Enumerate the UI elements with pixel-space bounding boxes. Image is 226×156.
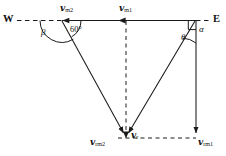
angle-label-theta: θ	[181, 33, 185, 42]
vector-label-v-r: vr	[131, 131, 138, 140]
angle-label-alpha: α	[199, 25, 204, 34]
vector-arrow-v-m2	[63, 18, 70, 23]
vector-subscript: r	[136, 133, 138, 140]
angle-label-beta: β	[41, 28, 45, 37]
diagram-canvas	[0, 0, 226, 156]
vector-subscript: rm2	[95, 140, 105, 147]
compass-label-east: E	[213, 14, 220, 25]
angle-label-sixty-degrees: 60°	[70, 26, 82, 34]
vector-subscript: m1	[124, 6, 132, 13]
vector-label-v-m1: vm1	[119, 4, 132, 13]
construction-arrow-vertical	[123, 132, 129, 139]
vector-subscript: m2	[65, 6, 73, 13]
vector-label-v-rm2: vrm2	[90, 138, 105, 147]
vector-arrow-v-m1	[119, 18, 126, 24]
vector-diagram-figure: W E vm2 vm1 vrm2 vr vrm1 β 60° α θ	[0, 0, 226, 156]
vector-label-v-rm1: vrm1	[198, 138, 213, 147]
vector-line-v-rm2	[62, 21, 124, 133]
vector-label-v-m2: vm2	[60, 4, 73, 13]
vector-subscript: rm1	[203, 140, 213, 147]
compass-label-west: W	[3, 14, 14, 25]
